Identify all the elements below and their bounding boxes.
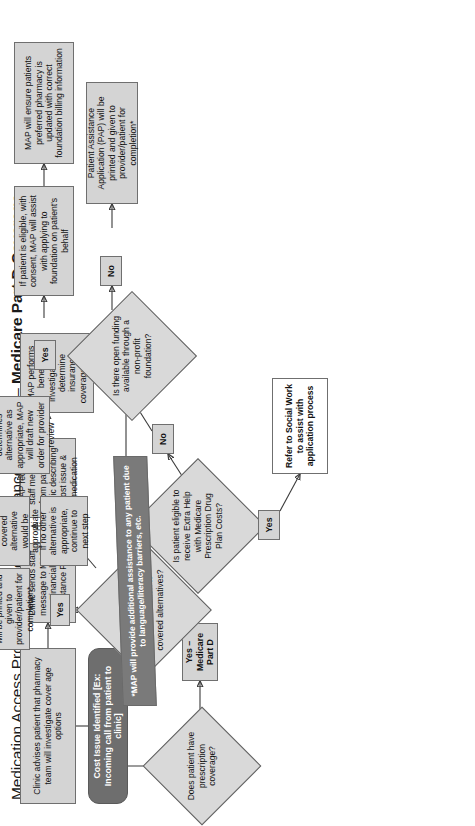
node-consult-provider-label: Consult with provider to determine if a … <box>0 501 41 561</box>
node-patient-eligible-consent-label: If patient is eligible, with consent, MA… <box>18 191 70 291</box>
decision-open-funding[interactable]: Is there open funding available through … <box>86 310 178 402</box>
node-provider-determines-label: If provider determines alternative as ap… <box>0 401 57 469</box>
node-pap-printed-top[interactable]: Patient Assistance Application (PAP) wil… <box>0 568 30 650</box>
node-provider-determines[interactable]: If provider determines alternative as ap… <box>0 396 50 474</box>
edge-label-no-open-funding-text: No <box>106 265 117 277</box>
edge-label-yes-open-funding[interactable]: Yes <box>34 340 56 370</box>
node-consult-provider[interactable]: Consult with provider to determine if a … <box>0 496 30 566</box>
edge-label-yes-extra-help-text: Yes <box>264 517 275 532</box>
edge-label-yes-tried-failed-text: Yes <box>55 602 66 617</box>
edge-label-yes-extra-help[interactable]: Yes <box>258 510 280 540</box>
edge-label-no-extra-help-text: No <box>158 433 169 445</box>
node-no-other-alternative[interactable]: If no other alternative is appropriate, … <box>40 496 88 566</box>
node-clinic-advises[interactable]: Clinic advises patient that pharmacy tea… <box>20 648 76 804</box>
note-language-literacy-label: *MAP will provide additional assistance … <box>120 461 150 701</box>
node-patient-eligible-consent[interactable]: If patient is eligible, with consent, MA… <box>14 186 74 296</box>
node-pharmacy-updated[interactable]: MAP will ensure patients preferred pharm… <box>14 42 74 164</box>
edge-label-no-open-funding[interactable]: No <box>100 256 122 286</box>
node-refer-social-work[interactable]: Refer to Social Work to assist with appl… <box>272 378 328 474</box>
node-pap-printed-bottom-label: Patient Assistance Application (PAP) wil… <box>86 87 138 199</box>
edge-label-no-extra-help[interactable]: No <box>152 424 174 454</box>
decision-open-funding-label: Is there open funding available through … <box>86 310 178 402</box>
edge-label-yes-tried-failed[interactable]: Yes <box>50 594 70 626</box>
node-refer-social-work-label: Refer to Social Work to assist with appl… <box>284 383 315 469</box>
node-pharmacy-updated-label: MAP will ensure patients preferred pharm… <box>23 47 65 159</box>
edge-label-yes-open-funding-text: Yes <box>40 347 51 362</box>
flowchart-canvas: Medication Access Program Financial Assi… <box>0 0 475 826</box>
node-clinic-advises-label: Clinic advises patient that pharmacy tea… <box>32 653 63 799</box>
node-pap-printed-bottom[interactable]: Patient Assistance Application (PAP) wil… <box>86 82 138 204</box>
node-no-other-alternative-label: If no other alternative is appropriate, … <box>38 501 90 561</box>
decision-prescription-coverage-label: Does patient have prescription coverage? <box>160 724 244 808</box>
node-pap-printed-top-label: Patient Assistance Application (PAP) wil… <box>0 573 35 645</box>
node-start-label: Cost Issue Identified [Ex: Incoming call… <box>92 653 124 799</box>
rotated-page-wrapper: Medication Access Program Financial Assi… <box>0 0 475 826</box>
decision-extra-help-label: Is patient eligible to receive Extra Hel… <box>150 478 246 574</box>
decision-prescription-coverage[interactable]: Does patient have prescription coverage? <box>160 724 244 808</box>
decision-extra-help[interactable]: Is patient eligible to receive Extra Hel… <box>150 478 246 574</box>
